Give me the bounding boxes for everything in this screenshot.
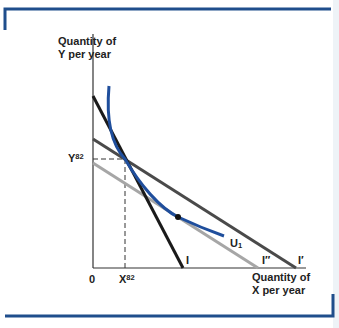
x-axis-label-line1: Quantity of [252,271,310,284]
x82-label: X82 [119,273,135,286]
origin-label: 0 [89,273,95,286]
budget-label-i-double-prime: I″ [262,254,270,267]
budget-label-i: I [186,254,189,267]
y-axis-label-line1: Quantity of [58,35,116,48]
indifference-curve-u1 [108,86,224,236]
u1-sub: 1 [238,241,242,250]
budget-line-i [93,96,183,268]
tangency-point [175,214,181,220]
y-axis-label-line2: Y per year [58,48,116,61]
frame [5,9,333,316]
budget-label-i-prime: I′ [298,254,304,267]
dashed-guides [93,159,125,268]
y82-sup: 82 [75,152,83,161]
y82-label: Y82 [68,152,84,165]
u1-label: U1 [230,237,242,250]
x82-sup: 82 [126,273,134,282]
x-axis-label-line2: X per year [252,284,310,297]
u1-base: U [230,237,238,249]
x-axis-label: Quantity of X per year [252,271,310,297]
y-axis-label: Quantity of Y per year [58,35,116,61]
